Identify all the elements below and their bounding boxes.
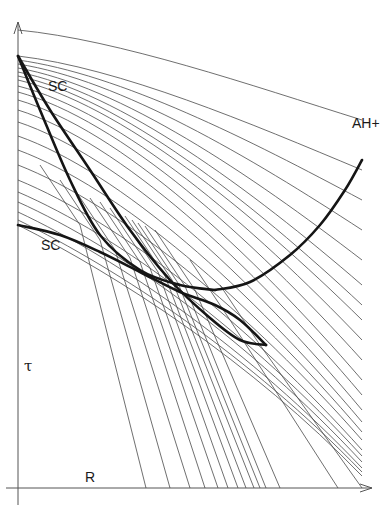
characteristic-curve bbox=[18, 30, 362, 120]
r-axis-label: R bbox=[85, 470, 95, 484]
characteristic-curve bbox=[18, 165, 362, 440]
characteristic-curve bbox=[18, 202, 362, 462]
characteristic-curve bbox=[18, 68, 362, 260]
tau-axis-label: τ bbox=[24, 359, 32, 374]
characteristic-curve bbox=[18, 150, 362, 432]
characteristic-curve bbox=[18, 122, 362, 410]
descending-curve bbox=[40, 165, 146, 488]
descending-curve bbox=[60, 180, 170, 488]
descending-curve bbox=[90, 198, 205, 488]
ah-plus-label: AH+ bbox=[352, 116, 380, 130]
characteristic-curves bbox=[18, 30, 362, 488]
descending-curve bbox=[100, 202, 218, 488]
sc-upper-label: SC bbox=[48, 79, 67, 93]
descending-curve bbox=[190, 260, 338, 488]
characteristic-curve bbox=[18, 80, 362, 320]
diagram-canvas bbox=[0, 0, 388, 513]
descending-curve bbox=[145, 226, 266, 488]
ah-plus-curve bbox=[215, 160, 362, 290]
characteristic-curve bbox=[18, 212, 362, 468]
envelope-curves bbox=[18, 56, 362, 345]
sc-lower-label: SC bbox=[41, 238, 60, 252]
